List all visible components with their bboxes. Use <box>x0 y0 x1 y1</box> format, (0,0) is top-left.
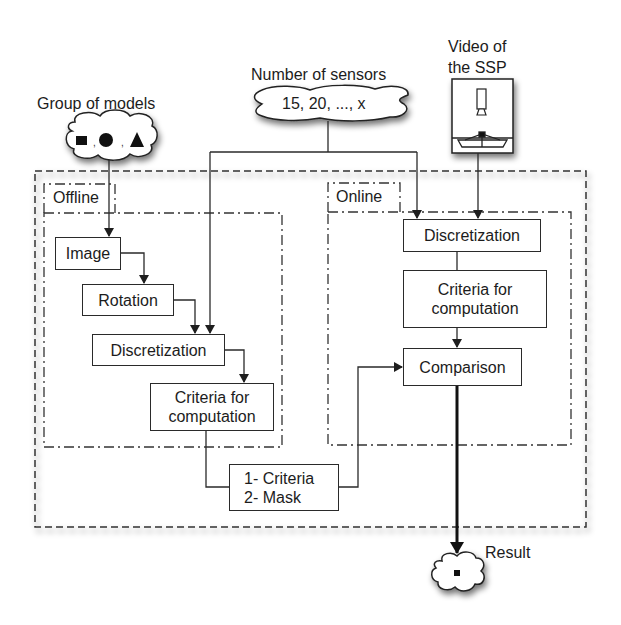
offline-discretization-label: Discretization <box>110 341 206 360</box>
offline-discretization-box: Discretization <box>92 334 225 366</box>
circle-shape-icon <box>99 133 113 147</box>
result-label: Result <box>485 544 530 562</box>
online-discretization-box: Discretization <box>403 219 541 252</box>
offline-criteria-line1: Criteria for <box>175 388 250 407</box>
offline-title: Offline <box>53 189 99 207</box>
online-criteria-box: Criteria for computation <box>403 270 547 328</box>
sensors-values: 15, 20, ..., x <box>282 95 366 113</box>
online-title: Online <box>336 188 382 206</box>
online-comparison-box: Comparison <box>403 348 522 386</box>
camera-icon <box>477 89 486 115</box>
square-shape-icon <box>76 136 87 145</box>
stored-line2: 2- Mask <box>244 488 301 507</box>
offline-rotation-label: Rotation <box>98 291 158 310</box>
offline-criteria-line2: computation <box>168 407 255 426</box>
offline-rotation-box: Rotation <box>82 284 174 316</box>
result-dot-icon <box>454 570 460 576</box>
offline-criteria-box: Criteria for computation <box>150 383 274 431</box>
comma: , <box>121 137 124 148</box>
online-discretization-label: Discretization <box>424 226 520 245</box>
offline-image-label: Image <box>66 244 110 263</box>
online-comparison-label: Comparison <box>419 358 505 377</box>
models-label: Group of models <box>37 95 155 113</box>
online-criteria-line2: computation <box>431 299 518 318</box>
video-label-line2: the SSP <box>448 59 507 77</box>
stored-criteria-mask-box: 1- Criteria 2- Mask <box>229 464 339 511</box>
models-cloud <box>66 110 157 160</box>
stored-line1: 1- Criteria <box>244 469 314 488</box>
video-label-line1: Video of <box>448 38 506 56</box>
comma: , <box>93 137 96 148</box>
online-criteria-line1: Criteria for <box>438 280 513 299</box>
offline-image-box: Image <box>55 237 121 270</box>
sensors-label: Number of sensors <box>251 66 386 84</box>
